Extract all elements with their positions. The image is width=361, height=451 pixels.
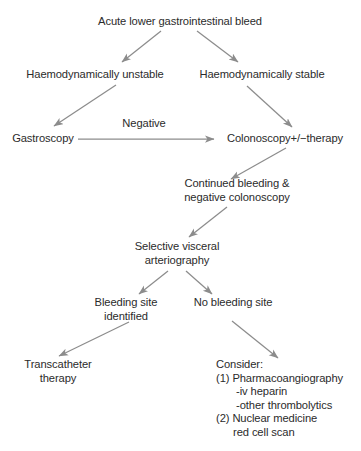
arrow-arteriography-to-bleeding-site — [139, 271, 168, 294]
node-selective-visceral-arteriography: Selective visceral arteriography — [113, 240, 241, 267]
consider-item-1-sub-2: -other thrombolytics — [216, 399, 356, 413]
arrow-title-to-stable — [197, 31, 238, 62]
consider-item-2: (2) Nuclear medicine — [216, 412, 356, 426]
edge-label-negative: Negative — [108, 117, 180, 131]
consider-item-2-cont: red cell scan — [216, 426, 356, 440]
node-continued-bleeding-negative-colonoscopy: Continued bleeding & negative colonoscop… — [172, 177, 302, 204]
arrow-colonoscopy-to-continued-bleeding — [231, 148, 286, 179]
node-gastroscopy: Gastroscopy — [8, 132, 78, 146]
consider-item-1-sub-1: -iv heparin — [216, 385, 356, 399]
node-haemodynamically-stable: Haemodynamically stable — [186, 68, 338, 82]
consider-heading: Consider: — [216, 358, 356, 372]
node-acute-lower-gi-bleed: Acute lower gastrointestinal bleed — [70, 15, 290, 29]
arrow-title-to-unstable — [122, 31, 161, 62]
arrow-stable-to-colonoscopy — [247, 86, 292, 127]
arrow-unstable-to-gastroscopy — [54, 85, 116, 126]
node-consider-options: Consider: (1) Pharmacoangiography -iv he… — [216, 358, 356, 440]
arrow-no-bleeding-site-to-consider — [232, 321, 278, 358]
arrow-bleeding-site-to-transcatheter — [59, 322, 129, 356]
node-transcatheter-therapy: Transcatheter therapy — [10, 358, 106, 385]
flowchart-canvas: Acute lower gastrointestinal bleed Haemo… — [0, 0, 361, 451]
node-haemodynamically-unstable: Haemodynamically unstable — [14, 68, 176, 82]
arrow-continued-bleeding-to-arteriography — [189, 207, 227, 237]
node-bleeding-site-identified: Bleeding site identified — [82, 296, 170, 323]
node-no-bleeding-site: No bleeding site — [180, 296, 286, 310]
node-colonoscopy-therapy: Colonoscopy+/−therapy — [216, 132, 354, 146]
arrow-arteriography-to-no-bleeding-site — [186, 271, 212, 294]
consider-item-1: (1) Pharmacoangiography — [216, 372, 356, 386]
